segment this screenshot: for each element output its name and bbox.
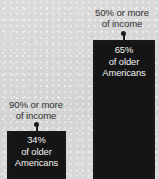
bar-right-group-line-2: Americans [102,67,145,79]
callout-label-right: 50% or more of income [86,7,158,30]
callout-left-line-1: 90% or more [0,99,72,110]
callout-left-line-2: of income [0,110,72,121]
bar-left: 34% of older Americans [7,131,66,179]
callout-label-left: 90% or more of income [0,99,72,122]
bar-chart-figure: 50% or more of income 65% of older Ameri… [0,0,159,179]
bar-right-text: 65% of older Americans [102,44,145,79]
bar-right: 65% of older Americans [93,40,155,179]
callout-right-line-2: of income [86,18,158,29]
bar-right-group-line-1: of older [102,56,145,68]
bar-left-group-line-2: Americans [15,157,58,169]
callout-right-line-1: 50% or more [86,7,158,18]
bar-left-group-line-1: of older [15,146,58,158]
bar-right-value: 65% [102,44,145,56]
bar-left-value: 34% [15,134,58,146]
bar-left-text: 34% of older Americans [15,134,58,169]
